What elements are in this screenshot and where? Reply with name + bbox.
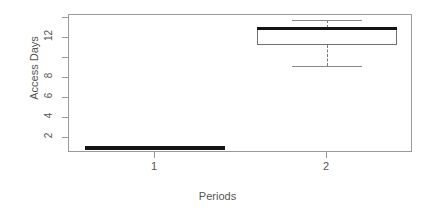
y-axis-tick-label: 6 <box>43 86 54 106</box>
y-axis-tick-label: 8 <box>43 66 54 86</box>
x-axis-tick <box>326 152 327 158</box>
x-axis-tick <box>154 152 155 158</box>
x-axis-tick-label: 1 <box>142 160 166 172</box>
plot-area <box>68 14 412 152</box>
boxplot-figure: Access Days 246812 12 Periods <box>0 0 435 219</box>
boxplot-median-line <box>257 27 397 30</box>
boxplot-box-group <box>69 15 411 151</box>
boxplot-upper-cap <box>292 20 362 21</box>
y-axis-tick-label: 2 <box>43 126 54 146</box>
y-axis-title: Access Days <box>28 8 40 128</box>
boxplot-lower-whisker <box>327 45 328 66</box>
x-axis-tick-label: 2 <box>314 160 338 172</box>
y-axis-tick-label: 4 <box>43 106 54 126</box>
x-axis-title: Periods <box>0 190 435 202</box>
boxplot-lower-cap <box>292 66 362 67</box>
y-axis-tick-label: 12 <box>43 26 54 46</box>
boxplot-iqr-box <box>257 28 397 45</box>
